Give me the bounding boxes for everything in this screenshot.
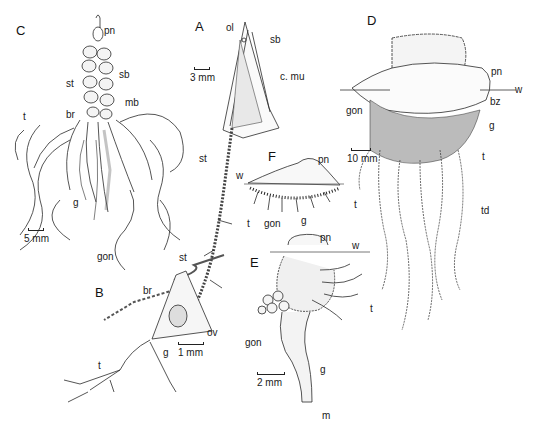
label-c-swimming-bell: sb [119, 70, 130, 80]
illustration-artwork [0, 0, 535, 431]
label-b-stem: st [179, 253, 187, 263]
label-b-tentacle: t [98, 361, 101, 371]
label-a-stem: st [199, 154, 207, 164]
label-e-tentacle: t [370, 304, 373, 314]
label-c-bract: br [66, 110, 75, 120]
label-d-budding-zone: bz [490, 97, 501, 107]
scale-bar-c: 5 mm [24, 234, 49, 244]
panel-b-drawing [64, 255, 224, 402]
label-d-pneumatophore: pn [491, 67, 502, 77]
label-f-gastrozooid: g [301, 216, 307, 226]
label-f-tentacle: t [354, 200, 357, 210]
label-a-tentacle: t [247, 219, 250, 229]
panel-label-c: C [16, 24, 25, 37]
panel-label-a: A [195, 20, 204, 33]
scale-bar-a: 3 mm [190, 73, 215, 83]
label-a-water-line: w [236, 171, 243, 181]
label-c-mb: mb [125, 98, 139, 108]
label-e-mouth: m [322, 411, 330, 421]
label-b-ovary: ov [207, 328, 218, 338]
label-d-gonophore: gon [346, 106, 363, 116]
panel-a-drawing [194, 22, 279, 308]
label-a-swimming-bell: sb [270, 35, 281, 45]
label-a-ol: ol [226, 23, 234, 33]
label-e-water-line: w [352, 241, 359, 251]
panel-label-f: F [268, 150, 276, 163]
scale-bar-d: 10 mm [347, 154, 378, 164]
label-c-stem: st [66, 79, 74, 89]
label-e-gastrozooid: g [320, 365, 326, 375]
label-c-gonophore: gon [97, 252, 114, 262]
label-c-gastrozooid: g [73, 198, 79, 208]
label-e-gonophore: gon [245, 338, 262, 348]
label-c-pneumatophore: pn [104, 26, 115, 36]
label-d-gastrozooid: g [489, 121, 495, 131]
panel-c-drawing [15, 15, 183, 270]
label-f-gonophore: gon [264, 219, 281, 229]
label-d-water-line: w [515, 85, 522, 95]
label-a-muscle: c. mu [280, 72, 304, 82]
panel-label-d: D [367, 14, 376, 27]
panel-label-b: B [95, 286, 104, 299]
panel-label-e: E [250, 256, 259, 269]
label-d-tentacle-detail: td [481, 206, 489, 216]
label-f-pneumatophore: pn [318, 155, 329, 165]
label-c-tentacle: t [23, 112, 26, 122]
label-e-pneumatophore: pn [320, 233, 331, 243]
label-d-tentacle: t [482, 152, 485, 162]
label-b-bract: br [143, 286, 152, 296]
panel-f-drawing [244, 158, 344, 212]
scale-bar-b: 1 mm [178, 348, 203, 358]
label-b-gastrozooid: g [163, 348, 169, 358]
scale-bar-e: 2 mm [257, 378, 282, 388]
panel-d-drawing [340, 34, 516, 330]
